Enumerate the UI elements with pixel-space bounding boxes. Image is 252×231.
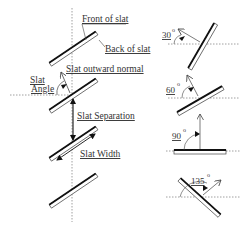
back-of-slat-label: Back of slat <box>105 44 151 54</box>
front-leader-line <box>82 24 86 40</box>
angle-label-90: 90 <box>172 131 182 141</box>
slat-1 <box>49 32 98 67</box>
angle-example-135: 135 o <box>166 172 240 217</box>
slat-4 <box>49 174 98 209</box>
slat-angle-label-line2: Angle <box>31 84 54 94</box>
slat-geometry-diagram: Front of slat Back of slat Slat outward … <box>0 0 252 231</box>
angle-label-135: 135 <box>191 176 205 186</box>
angle-label-60: 60 <box>166 85 176 95</box>
diagram-svg: Front of slat Back of slat Slat outward … <box>0 0 252 231</box>
front-of-slat-label: Front of slat <box>82 14 129 24</box>
slat-angle-arrowhead <box>61 84 67 89</box>
slat-separation-label: Slat Separation <box>77 111 135 121</box>
angle-example-60: 60 o <box>166 75 240 116</box>
slat-outward-normal-label: Slat outward normal <box>66 64 144 74</box>
slat-width-label: Slat Width <box>80 149 121 159</box>
svg-text:o: o <box>172 27 175 33</box>
angle-example-90: 90 o <box>166 114 240 154</box>
angle-label-30: 30 <box>162 30 172 40</box>
svg-text:o: o <box>183 127 186 133</box>
angle-example-30: 30 o <box>162 23 240 70</box>
outward-normal-arrow <box>61 72 70 93</box>
slat-2 <box>49 79 98 114</box>
svg-text:o: o <box>177 81 180 87</box>
svg-text:o: o <box>207 172 210 178</box>
